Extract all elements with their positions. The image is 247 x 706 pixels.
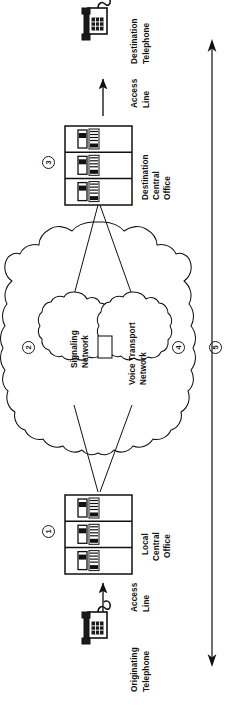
destination-central-office-label-line2: Central [152, 171, 162, 200]
network-diagram-figure: Destination Telephone Access Line Destin… [0, 0, 247, 706]
destination-central-office-icon [65, 126, 132, 205]
originating-telephone-label-line1: Originating [130, 647, 140, 692]
destination-telephone-label-line1: Destination [130, 18, 140, 64]
marker-2-outer-network: 2 [22, 341, 35, 354]
destination-telephone-icon [82, 0, 110, 40]
voice-transport-network-label: Voice Transport [128, 322, 138, 385]
originating-access-line-label-2: Line [142, 595, 152, 612]
originating-access-line-label-line1: Access [130, 583, 140, 612]
destination-telephone-label-line2: Telephone [142, 23, 152, 64]
marker-3-text: 3 [43, 157, 54, 168]
destination-central-office-label-3: Office [163, 176, 173, 200]
marker-5-end-to-end-span: 5 [209, 341, 222, 354]
destination-telephone-label: Destination [130, 18, 140, 64]
destination-access-line-label: Access [130, 79, 140, 108]
originating-telephone-label: Originating [130, 647, 140, 692]
destination-central-office-label-2: Central [152, 171, 162, 200]
marker-1-text: 1 [43, 526, 54, 537]
destination-telephone-label-2: Telephone [142, 23, 152, 64]
inter-network-connector [98, 336, 112, 358]
signaling-network-label-line1: Signaling [70, 330, 80, 368]
marker-3-destination-central-office: 3 [42, 156, 55, 169]
originating-telephone-icon [82, 601, 110, 644]
signaling-network-label: Signaling [70, 330, 80, 368]
destination-central-office-label-line3: Office [163, 176, 173, 200]
marker-2-text: 2 [23, 342, 34, 353]
signaling-network-label-line2: Network [81, 335, 91, 368]
marker-1-local-central-office: 1 [42, 525, 55, 538]
destination-access-line-label-line1: Access [130, 79, 140, 108]
voice-transport-network-label-line1: Voice Transport [128, 322, 138, 385]
signaling-network-label-2: Network [81, 335, 91, 368]
local-central-office-icon [65, 495, 132, 574]
voice-transport-network-label-line2: Network [139, 352, 149, 385]
local-central-office-label-line1: Local [141, 533, 151, 555]
originating-telephone-label-line2: Telephone [142, 651, 152, 692]
local-central-office-label: Local [141, 533, 151, 555]
local-central-office-label-line3: Office [163, 534, 173, 558]
local-central-office-label-line2: Central [152, 532, 162, 561]
originating-telephone-label-2: Telephone [142, 651, 152, 692]
destination-central-office-label: Destination [141, 154, 151, 200]
destination-access-line-label-line2: Line [142, 91, 152, 108]
diagram-canvas [0, 0, 247, 706]
marker-4-voice-transport-network: 4 [172, 341, 185, 354]
originating-access-line-label-line2: Line [142, 595, 152, 612]
marker-4-text: 4 [173, 342, 184, 353]
destination-central-office-label-line1: Destination [141, 154, 151, 200]
local-central-office-label-3: Office [163, 534, 173, 558]
originating-access-line-label: Access [130, 583, 140, 612]
voice-transport-network-label-2: Network [139, 352, 149, 385]
marker-5-text: 5 [210, 342, 221, 353]
local-central-office-label-2: Central [152, 532, 162, 561]
destination-access-line-label-2: Line [142, 91, 152, 108]
